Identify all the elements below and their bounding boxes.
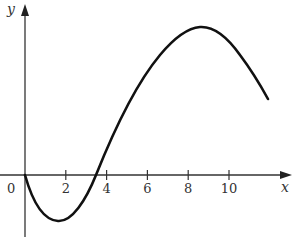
x-tick-label: 10 [221,181,238,196]
x-axis-label: x [281,179,289,195]
x-tick-label: 2 [62,181,70,196]
y-axis-label: y [6,1,16,17]
x-tick-label: 8 [184,181,192,196]
x-tick-label: 6 [143,181,151,196]
chart: 246810 y x 0 [0,0,299,237]
origin-label: 0 [7,181,15,196]
x-tick-label: 4 [102,181,110,196]
y-axis-arrow-icon [21,4,29,16]
x-axis-arrow-icon [280,171,292,179]
